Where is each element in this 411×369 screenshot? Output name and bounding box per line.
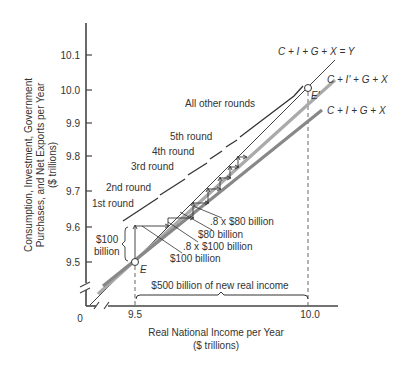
y-axis-title: Consumption, Investment, Government Purc… [23,78,58,252]
svg-text:Consumption, Investment, Gover: Consumption, Investment, Government [23,78,34,252]
annotation-step4: .8 x $80 billion [210,216,274,227]
y-axis [80,23,92,306]
label-c-i-g-x: C + I + G + X [327,105,386,116]
y-tick-label: 9.7 [66,186,80,197]
y-tick-label: 10.0 [61,85,81,96]
svg-text:($ trillions): ($ trillions) [47,142,58,188]
y-tick-label: 9.6 [66,222,80,233]
annotation-step1: $100 billion [170,253,221,264]
investment-brace [122,227,128,261]
y-tick-label: 9.5 [66,257,80,268]
point-e-label: E [140,264,147,275]
origin-label: 0 [77,313,83,324]
x-axis-title-units: ($ trillions) [193,340,239,351]
round-5-label: 5th round [170,131,212,142]
annotation-step2: .8 x $100 billion [183,241,253,252]
y-tick-label: 10.1 [61,50,81,61]
x-tick-label: 9.5 [128,309,142,320]
point-e-prime-label: E' [311,90,321,101]
multiplier-chart: 10.1 10.0 9.9 9.8 9.7 9.6 9.5 0 9.5 10.0… [0,0,411,369]
round-3-label: 3rd round [131,161,174,172]
round-other-label: All other rounds [185,98,255,109]
annotation-income: $500 billion of new real income [151,280,289,291]
x-tick-label: 10.0 [300,309,320,320]
point-e [132,259,139,266]
y-tick-label: 9.9 [66,118,80,129]
y-tick-label: 9.8 [66,151,80,162]
annotation-investment: $100 [96,234,119,245]
label-45-degree: C + I + G + X = Y [278,46,356,57]
annotation-investment-2: billion [94,246,120,257]
x-axis [86,302,338,309]
income-brace [136,292,308,299]
round-1-label: 1st round [92,198,134,209]
x-axis-title: Real National Income per Year [148,327,284,338]
annotation-step3: $80 billion [198,229,243,240]
round-2-label: 2nd round [106,182,151,193]
round-4-label: 4th round [152,146,194,157]
svg-text:Purchases, and Net Exports per: Purchases, and Net Exports per Year [35,82,46,247]
label-c-i-prime-g-x: C + I' + G + X [327,74,388,85]
